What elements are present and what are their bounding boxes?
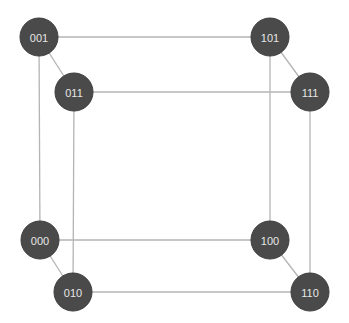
node-101: 101 [251,18,289,56]
node-011: 011 [55,73,93,111]
node-label: 010 [64,287,82,299]
node-111: 111 [291,73,329,111]
node-label: 001 [30,32,48,44]
edge-011-010 [73,92,74,292]
node-label: 011 [65,87,83,99]
node-label: 000 [31,235,49,247]
node-label: 111 [302,87,319,99]
node-label: 110 [301,287,319,299]
nodes-layer: 001101011111000100010110 [20,18,329,311]
node-110: 110 [291,273,329,311]
node-label: 100 [261,235,279,247]
node-010: 010 [54,273,92,311]
node-100: 100 [251,221,289,259]
node-001: 001 [20,18,58,56]
edge-001-000 [39,37,40,240]
node-label: 101 [261,32,279,44]
node-000: 000 [21,221,59,259]
hypercube-diagram: 001101011111000100010110 [0,0,349,323]
